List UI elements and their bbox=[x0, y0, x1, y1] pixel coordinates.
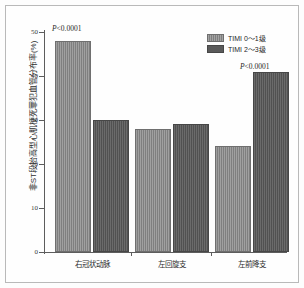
annotation-p-right-value: <0.0001 bbox=[245, 62, 270, 71]
y-tick-label-50: 50 bbox=[31, 28, 38, 36]
bar-rca-timi01 bbox=[55, 41, 91, 252]
annotation-p-left-value: <0.0001 bbox=[57, 24, 82, 33]
x-tick-sep-2 bbox=[211, 252, 212, 256]
y-tick-label-20: 20 bbox=[31, 160, 38, 168]
bar-lad-timi23 bbox=[253, 72, 289, 252]
x-category-label-rca: 右冠状动脉 bbox=[75, 258, 110, 269]
x-axis-line bbox=[44, 252, 287, 253]
y-tick-label-10: 10 bbox=[31, 204, 38, 212]
bar-lad-timi01 bbox=[215, 146, 251, 252]
chart-figure: 非ST段抬高型心肌梗死罪犯血管分布率(%) 50 40 30 20 10 0 P… bbox=[0, 0, 304, 288]
y-tick-label-30: 30 bbox=[31, 116, 38, 124]
y-axis-tick-labels: 50 40 30 20 10 0 bbox=[0, 32, 38, 252]
annotation-p-left: P<0.0001 bbox=[52, 24, 81, 33]
x-category-label-lcx: 左回旋支 bbox=[158, 258, 186, 269]
legend-swatch-timi23 bbox=[207, 45, 224, 53]
y-tick-label-0: 0 bbox=[35, 248, 39, 256]
legend-item-timi23: TIMI 2～3级 bbox=[207, 44, 266, 54]
x-category-label-lad: 左前降支 bbox=[238, 258, 266, 269]
annotation-p-right: P<0.0001 bbox=[240, 62, 269, 71]
legend-label-timi23: TIMI 2～3级 bbox=[228, 44, 266, 54]
legend-item-timi01: TIMI 0～1级 bbox=[207, 33, 266, 43]
legend-label-timi01: TIMI 0～1级 bbox=[228, 33, 266, 43]
bar-rca-timi23 bbox=[93, 120, 129, 252]
x-tick-sep-1 bbox=[131, 252, 132, 256]
bar-lcx-timi23 bbox=[173, 124, 209, 252]
chart-legend: TIMI 0～1级 TIMI 2～3级 bbox=[207, 33, 266, 55]
y-tick-label-40: 40 bbox=[31, 72, 38, 80]
legend-swatch-timi01 bbox=[207, 34, 224, 42]
bar-lcx-timi01 bbox=[135, 129, 171, 252]
